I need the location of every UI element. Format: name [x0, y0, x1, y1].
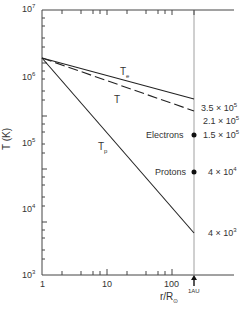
- arrow-head-icon: [191, 275, 197, 280]
- plot-area: [0, 0, 249, 309]
- x-tick-label: 1: [40, 280, 45, 289]
- x-tick-label: 10: [102, 280, 112, 289]
- series-tp: [42, 58, 194, 233]
- y-tick-label: 103: [22, 271, 35, 280]
- electrons-value: 1.5 × 105: [203, 131, 239, 140]
- y-ticks: [42, 18, 47, 259]
- protons-value: 4 × 104: [208, 168, 237, 177]
- te-label: Te: [120, 67, 129, 77]
- protons-label: Protons: [155, 168, 186, 177]
- y-tick-label: 106: [22, 73, 35, 82]
- x-tick-label: 100: [164, 280, 179, 289]
- au-label: 1AU: [188, 288, 200, 294]
- electrons-point: [192, 133, 197, 138]
- electrons-label: Electrons: [146, 131, 184, 140]
- tp-label: Tp: [98, 142, 107, 152]
- y-tick-label: 107: [22, 5, 35, 14]
- te-end-value: 3.5 × 105: [201, 104, 237, 113]
- tp-end-value: 4 × 103: [208, 229, 237, 238]
- t-end-value: 2.1 × 105: [203, 117, 239, 126]
- x-axis-label: r/R⊙: [160, 292, 178, 302]
- y-tick-label: 104: [22, 205, 35, 214]
- chart: 107 106 105 104 103 T (K) 1 10 100 r/R⊙ …: [0, 0, 249, 309]
- series-te: [42, 58, 194, 99]
- y-tick-label: 105: [22, 139, 35, 148]
- x-ticks: [62, 10, 194, 275]
- protons-point: [192, 170, 197, 175]
- y-axis-label: T (K): [2, 128, 12, 150]
- t-label: T: [114, 95, 120, 105]
